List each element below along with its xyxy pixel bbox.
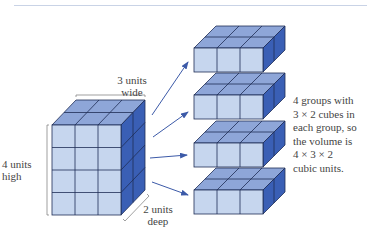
large-prism: [52, 100, 145, 215]
explanation-line: cubic units.: [293, 162, 357, 176]
cube-group: [194, 26, 285, 72]
explanation-line: 4 × 3 × 2: [293, 148, 357, 162]
cube-group: [194, 121, 285, 167]
width-label: 3 units wide: [102, 74, 162, 98]
height-label: 4 units high: [2, 158, 46, 182]
cube-group: [194, 73, 285, 119]
cube-group: [194, 168, 285, 214]
explanation-line: each group, so: [293, 121, 357, 135]
depth-label: 2 units deep: [136, 203, 180, 227]
explanation-line: 3 × 2 cubes in: [293, 108, 357, 122]
volume-explanation: 4 groups with 3 × 2 cubes in each group,…: [293, 94, 357, 175]
explanation-line: the volume is: [293, 135, 357, 149]
explanation-line: 4 groups with: [293, 94, 357, 108]
